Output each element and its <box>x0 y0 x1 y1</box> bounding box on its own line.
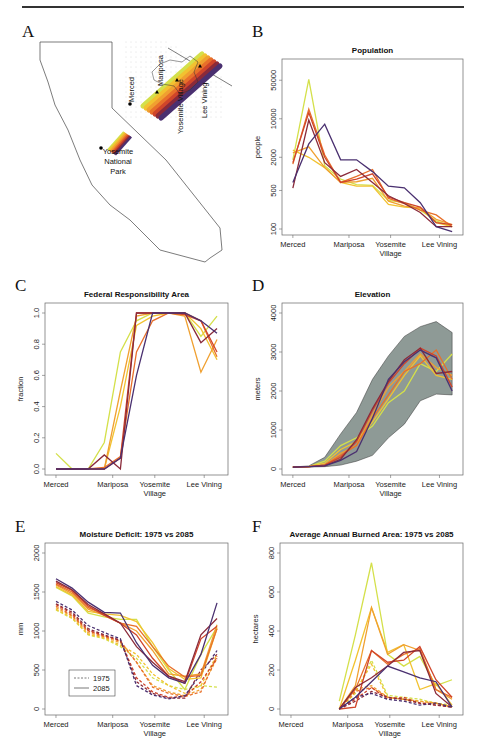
y-tick-label: 10000 <box>269 108 278 129</box>
x-tick-label: Merced <box>280 480 305 489</box>
elevation-range-band <box>293 322 452 467</box>
chart-title: Elevation <box>355 290 391 299</box>
series-line <box>293 109 452 227</box>
y-tick-label: 0.6 <box>32 370 41 380</box>
series-line <box>293 79 452 226</box>
y-tick-label: 50000 <box>269 70 278 91</box>
chart-title: Moisture Deficit: 1975 vs 2085 <box>80 530 194 539</box>
chart-c: Federal Responsibility Area0.00.20.40.60… <box>16 290 228 498</box>
chart-b: Population10050020001000050000peopleMerc… <box>253 46 463 258</box>
y-axis-label: meters <box>253 377 262 400</box>
y-tick-label: 0 <box>32 707 41 711</box>
x-tick-label: Village <box>144 489 166 498</box>
x-tick-label: Mariposa <box>97 480 129 489</box>
x-tick-label: Lee Vining <box>187 720 222 729</box>
y-tick-label: 0 <box>267 707 276 711</box>
series-line <box>56 313 217 469</box>
y-tick-label: 0.4 <box>32 401 41 411</box>
x-tick-label: Yosemite <box>375 480 406 489</box>
chart-title: Average Annual Burned Area: 1975 vs 2085 <box>289 530 454 539</box>
chart-d: Elevation01000200030004000metersMercedMa… <box>253 290 463 498</box>
x-tick-label: Village <box>379 489 401 498</box>
y-tick-label: 200 <box>267 664 276 677</box>
y-tick-label: 500 <box>269 184 278 197</box>
y-tick-label: 0.2 <box>32 433 41 443</box>
y-tick-label: 500 <box>32 664 41 677</box>
y-tick-label: 1000 <box>269 422 278 439</box>
x-tick-label: Village <box>379 729 401 738</box>
x-tick-label: Yosemite <box>140 720 171 729</box>
x-tick-label: Yosemite <box>375 240 406 249</box>
y-tick-label: 3000 <box>269 344 278 361</box>
series-line <box>293 112 452 224</box>
x-tick-label: Lee Vining <box>187 480 222 489</box>
x-tick-label: Village <box>379 249 401 258</box>
y-tick-label: 0 <box>269 467 278 471</box>
y-tick-label: 1500 <box>32 584 41 601</box>
chart-title: Federal Responsibility Area <box>84 290 190 299</box>
y-tick-label: 1.0 <box>32 308 41 318</box>
y-tick-label: 1000 <box>32 623 41 640</box>
series-line <box>339 608 452 709</box>
y-tick-label: 800 <box>267 547 276 560</box>
series-line <box>56 313 217 469</box>
x-tick-label: Merced <box>43 480 68 489</box>
x-tick-label: Mariposa <box>332 720 364 729</box>
y-tick-label: 2000 <box>32 545 41 562</box>
series-line <box>56 313 217 469</box>
legend-label: 2085 <box>93 684 110 693</box>
chart-title: Population <box>352 46 393 55</box>
series-line <box>56 313 217 469</box>
y-tick-label: 600 <box>267 586 276 599</box>
series-line <box>56 313 217 469</box>
x-tick-label: Lee Vining <box>422 480 457 489</box>
chart-e: Moisture Deficit: 1975 vs 20850500100015… <box>16 530 228 738</box>
y-axis-label: hectares <box>251 614 260 643</box>
y-tick-label: 4000 <box>269 305 278 322</box>
y-axis-label: people <box>253 136 262 159</box>
x-tick-label: Mariposa <box>97 720 129 729</box>
x-tick-label: Lee Vining <box>422 240 457 249</box>
series-line <box>56 313 217 469</box>
y-tick-label: 0.0 <box>32 464 41 474</box>
chart-canvas: Population10050020001000050000peopleMerc… <box>0 0 477 750</box>
y-tick-label: 2000 <box>269 383 278 400</box>
x-tick-label: Yosemite <box>375 720 406 729</box>
x-tick-label: Yosemite <box>140 480 171 489</box>
y-tick-label: 100 <box>269 223 278 236</box>
chart-f: Average Annual Burned Area: 1975 vs 2085… <box>251 530 463 738</box>
y-tick-label: 400 <box>267 625 276 638</box>
x-tick-label: Mariposa <box>334 240 366 249</box>
legend-label: 1975 <box>93 674 110 683</box>
y-tick-label: 2000 <box>269 149 278 166</box>
x-tick-label: Village <box>144 729 166 738</box>
x-tick-label: Merced <box>43 720 68 729</box>
y-tick-label: 0.8 <box>32 339 41 349</box>
x-tick-label: Merced <box>278 720 303 729</box>
x-tick-label: Lee Vining <box>422 720 457 729</box>
y-axis-label: fraction <box>16 377 25 402</box>
x-tick-label: Merced <box>280 240 305 249</box>
y-axis-label: mm <box>16 623 25 636</box>
series-line <box>56 313 217 469</box>
x-tick-label: Mariposa <box>334 480 366 489</box>
